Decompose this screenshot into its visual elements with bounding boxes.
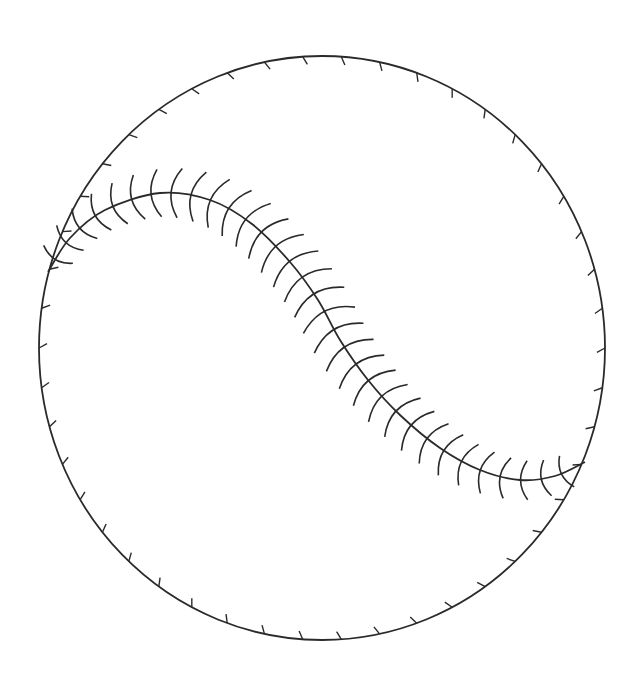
rim-tick <box>410 617 417 623</box>
rim-tick <box>80 492 85 500</box>
rim-tick <box>42 382 49 387</box>
rim-tick <box>533 531 542 533</box>
rim-tick <box>445 602 452 607</box>
baseball-drawing <box>0 0 642 686</box>
rim-tick <box>62 457 68 464</box>
rim-tick <box>42 305 51 308</box>
rim-tick <box>49 421 56 427</box>
rim-tick <box>595 308 602 313</box>
rim-tick <box>159 109 167 113</box>
rim-tick <box>417 73 418 82</box>
rim-tick <box>337 632 342 640</box>
rim-tick <box>264 62 270 69</box>
rim-tick <box>129 135 137 138</box>
rim-tick <box>477 582 485 586</box>
rim-tick <box>576 232 582 239</box>
rim-tick <box>62 231 71 232</box>
rim-tick <box>484 109 485 118</box>
seam-line <box>48 193 585 481</box>
baseball-figure <box>0 0 642 686</box>
rim-stitch-ticks <box>39 57 605 640</box>
rim-tick <box>507 558 515 561</box>
rim-tick <box>588 269 595 275</box>
rim-tick <box>513 135 515 144</box>
rim-tick <box>159 578 160 587</box>
ball-outline <box>39 56 605 640</box>
rim-tick <box>192 89 199 94</box>
rim-tick <box>227 73 234 79</box>
rim-tick <box>80 196 89 197</box>
seam-stitches <box>44 169 575 500</box>
rim-tick <box>102 524 106 532</box>
rim-tick <box>39 344 47 348</box>
rim-tick <box>594 388 603 391</box>
rim-tick <box>374 627 380 634</box>
rim-tick <box>299 631 303 639</box>
rim-tick <box>538 164 542 172</box>
rim-tick <box>559 196 564 204</box>
rim-tick <box>226 614 227 623</box>
rim-tick <box>303 57 308 65</box>
rim-tick <box>102 164 111 166</box>
rim-tick <box>597 348 605 352</box>
rim-tick <box>555 499 564 500</box>
rim-tick <box>341 57 345 65</box>
rim-tick <box>129 553 131 562</box>
